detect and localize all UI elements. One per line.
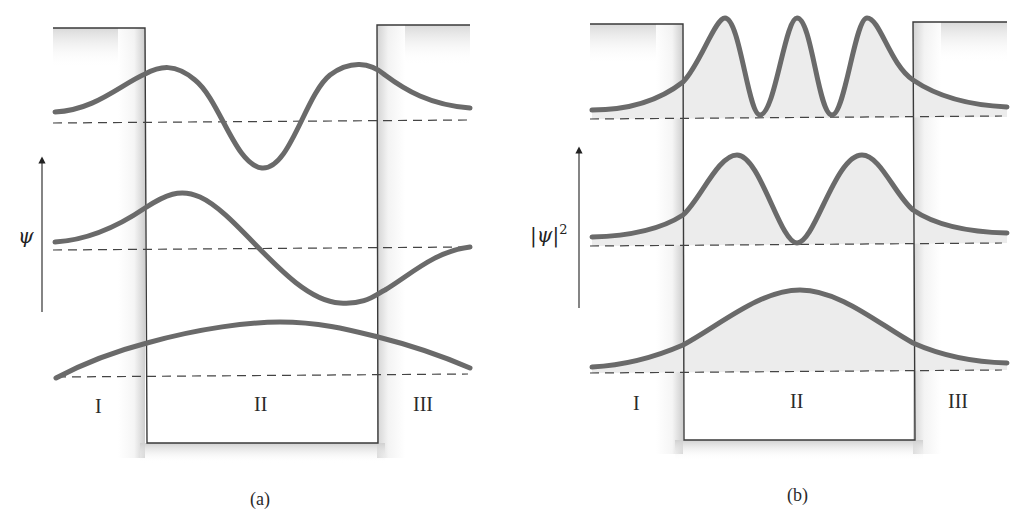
well-bottom-shade — [140, 443, 385, 463]
wavefunction-n2 — [55, 193, 470, 303]
psi-axis-label: ψ — [18, 224, 34, 248]
energy-level-3 — [53, 120, 468, 123]
psi-squared-axis-label: |ψ|2 — [530, 222, 567, 247]
region-label-iii: III — [948, 390, 968, 413]
finite-well-diagram — [0, 0, 1022, 532]
superscript-two: 2 — [559, 222, 567, 237]
psi-abs-text: |ψ| — [530, 223, 559, 247]
region-label-i: I — [633, 392, 640, 415]
region-label-i: I — [95, 395, 102, 418]
probability-area-n2 — [592, 155, 1007, 246]
left-wall-shade — [118, 28, 145, 458]
probability-area-n1 — [592, 290, 1007, 373]
region-label-ii: II — [254, 393, 267, 416]
wavefunction-n3 — [55, 64, 470, 168]
right-wall-shade — [377, 25, 405, 458]
well-bottom-shade — [675, 440, 923, 460]
panel-a-caption: (a) — [250, 489, 270, 510]
region-label-iii: III — [413, 393, 433, 416]
panel-b-caption: (b) — [787, 485, 808, 506]
region-label-ii: II — [790, 390, 803, 413]
